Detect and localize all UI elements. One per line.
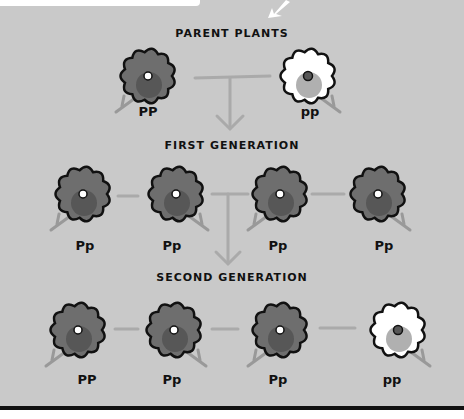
genotype-label: pp xyxy=(372,372,412,387)
genotype-label: pp xyxy=(290,104,330,119)
flower-purple-icon xyxy=(131,149,221,239)
flower-purple-icon xyxy=(235,285,325,375)
genotype-label: Pp xyxy=(65,238,105,253)
genotype-label: Pp xyxy=(152,238,192,253)
flower-white-icon xyxy=(353,285,443,375)
genotype-label: PP xyxy=(67,372,107,387)
genotype-label: Pp xyxy=(258,372,298,387)
diagram-canvas: PARENT PLANTS FIRST GENERATION SECOND GE… xyxy=(0,0,464,408)
flower-purple-icon xyxy=(235,149,325,239)
genotype-label: PP xyxy=(128,104,168,119)
genotype-label: Pp xyxy=(364,238,404,253)
genotype-label: Pp xyxy=(152,372,192,387)
ground-line xyxy=(0,406,464,410)
flower-purple-icon xyxy=(333,149,423,239)
flower-purple-icon xyxy=(38,149,128,239)
genotype-label: Pp xyxy=(258,238,298,253)
flower-purple-icon xyxy=(129,285,219,375)
flower-purple-icon xyxy=(33,285,123,375)
